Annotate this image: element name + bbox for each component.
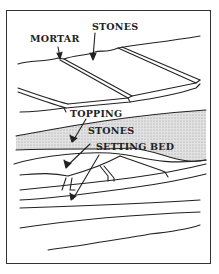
label-stones-section: STONES <box>88 125 134 136</box>
top-stones <box>18 36 200 112</box>
label-stones-top: STONES <box>92 21 138 32</box>
section-stones <box>14 153 206 208</box>
label-mortar: MORTAR <box>30 33 80 44</box>
label-topping: TOPPING <box>70 108 122 119</box>
label-setting-bed: SETTING BED <box>96 141 174 152</box>
